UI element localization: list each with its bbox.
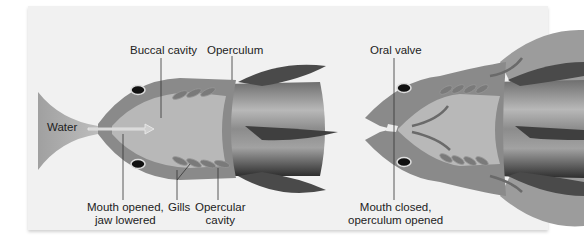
label-mouth-closed: Mouth closed, operculum opened (348, 201, 443, 227)
label-opercular-cavity: Opercular cavity (195, 201, 246, 227)
eye-bottom-right (397, 158, 411, 167)
label-operculum: Operculum (207, 44, 263, 57)
label-mouth-opened: Mouth opened, jaw lowered (87, 201, 164, 227)
label-water: Water (47, 121, 77, 134)
label-gills: Gills (168, 201, 190, 214)
label-mouth-closed-line2: operculum opened (348, 214, 443, 227)
label-mouth-opened-line1: Mouth opened, (87, 201, 164, 214)
right-fish (365, 30, 584, 227)
eye-bottom (131, 160, 145, 169)
eye-top-right (397, 84, 411, 93)
label-mouth-closed-line1: Mouth closed, (348, 201, 443, 214)
label-opercular-cavity-line2: cavity (195, 214, 246, 227)
eye-top (131, 86, 145, 95)
label-opercular-cavity-line1: Opercular (195, 201, 246, 214)
label-oral-valve: Oral valve (370, 44, 422, 57)
label-mouth-opened-line2: jaw lowered (87, 214, 164, 227)
label-buccal-cavity: Buccal cavity (130, 44, 197, 57)
left-fish (38, 56, 338, 200)
